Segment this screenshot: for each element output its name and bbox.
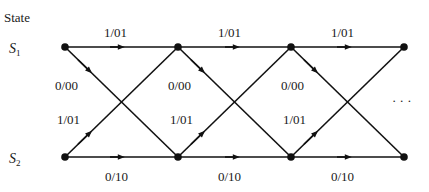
continuation-ellipsis: · · ·: [392, 93, 412, 108]
arrow-icon: [304, 60, 316, 72]
edge-label-bottom-3: 0/10: [331, 169, 354, 184]
state-axis-title: State: [4, 10, 30, 25]
edge-label-bottom-1: 0/10: [105, 169, 128, 184]
edge-label-top-2: 1/01: [218, 25, 241, 40]
trellis-diagram: State S1 S2: [0, 0, 429, 192]
node-s2-t2: [287, 153, 295, 161]
node-s2-t3: [400, 153, 408, 161]
node-s2-t1: [174, 153, 182, 161]
edge-label-up-2: 1/01: [170, 112, 193, 127]
edge-label-bottom-2: 0/10: [218, 169, 241, 184]
edge-label-top-1: 1/01: [104, 25, 127, 40]
node-s1-t1: [174, 43, 182, 51]
edge-label-top-3: 1/01: [331, 25, 354, 40]
edge-label-down-1: 0/00: [55, 78, 78, 93]
edge-label-down-3: 0/00: [281, 78, 304, 93]
arrow-icon: [304, 133, 316, 145]
arrow-icon: [78, 133, 90, 145]
edge-label-down-2: 0/00: [168, 78, 191, 93]
node-s2-t0: [61, 153, 69, 161]
state-s2-label: S2: [9, 151, 21, 168]
node-s1-t0: [61, 43, 69, 51]
arrow-icon: [78, 60, 90, 72]
node-s1-t3: [400, 43, 408, 51]
arrow-icon: [191, 133, 203, 145]
node-s1-t2: [287, 43, 295, 51]
state-s1-label: S1: [9, 41, 21, 58]
arrow-icon: [191, 60, 203, 72]
edge-label-up-1: 1/01: [57, 112, 80, 127]
edge-label-up-3: 1/01: [283, 112, 306, 127]
